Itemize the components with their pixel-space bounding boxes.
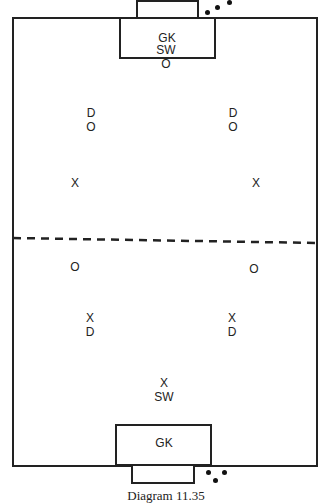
- player-marker: D: [70, 326, 110, 339]
- ball-icon: [222, 470, 227, 475]
- player-marker: D: [71, 107, 111, 120]
- player-marker: X: [55, 177, 95, 190]
- player-marker: SW: [146, 44, 186, 57]
- player-marker: O: [146, 58, 186, 71]
- player-marker: D: [212, 326, 252, 339]
- player-marker: X: [144, 377, 184, 390]
- player-marker: O: [71, 121, 111, 134]
- ball-icon: [206, 470, 211, 475]
- player-marker: D: [213, 107, 253, 120]
- player-marker: X: [236, 177, 276, 190]
- diagram-caption: Diagram 11.35: [106, 488, 226, 504]
- bottom-goalkeeper-label: GK: [144, 437, 184, 450]
- player-marker: O: [213, 121, 253, 134]
- player-marker: X: [70, 312, 110, 325]
- player-marker: X: [212, 312, 252, 325]
- player-marker: O: [55, 261, 95, 274]
- bottom-goal: [131, 464, 195, 484]
- ball-icon: [213, 478, 218, 483]
- player-marker: O: [234, 263, 274, 276]
- player-marker: SW: [144, 391, 184, 404]
